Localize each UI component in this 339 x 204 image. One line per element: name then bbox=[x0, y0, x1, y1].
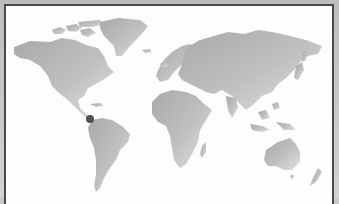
map-frame bbox=[0, 0, 339, 198]
location-marker-icon[interactable] bbox=[86, 115, 94, 123]
south-america bbox=[88, 118, 130, 192]
north-america bbox=[14, 38, 114, 120]
australia bbox=[264, 138, 300, 170]
world-map bbox=[0, 0, 339, 198]
new-zealand bbox=[310, 168, 322, 186]
greenland bbox=[100, 18, 148, 56]
